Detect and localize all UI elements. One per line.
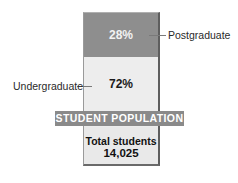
total-students-value: 14,025 [84,147,158,160]
postgraduate-label: Postgraduate [168,29,230,41]
chart-title-banner: STUDENT POPULATION [55,111,184,126]
undergraduate-percent: 72% [84,77,158,91]
undergraduate-segment: 72% [84,57,158,112]
postgraduate-leader-line [149,35,166,36]
student-population-chart: 28% 72% Total students 14,025 STUDENT PO… [0,0,238,183]
total-students-label: Total students [84,135,158,147]
total-box: Total students 14,025 [84,127,158,164]
postgraduate-segment: 28% [84,13,158,57]
undergraduate-label: Undergraduate [13,80,83,92]
postgraduate-percent: 28% [84,28,158,42]
